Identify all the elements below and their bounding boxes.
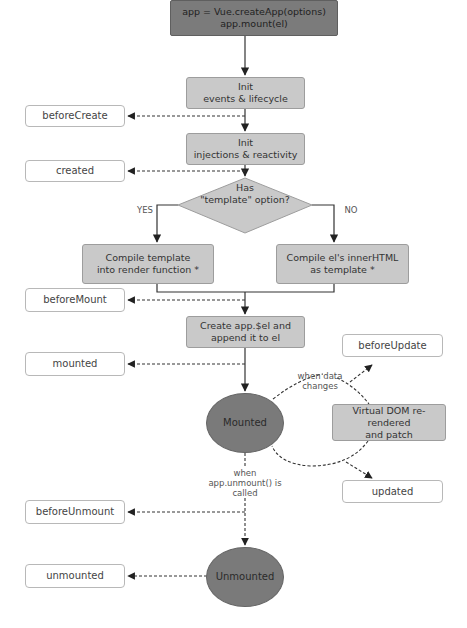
mounted-state: Mounted [206, 393, 284, 453]
before-update-arrow [350, 365, 372, 382]
compile-el-node: Compile el's innerHTML as template * [276, 244, 409, 284]
vdom-line2: and patch [365, 429, 413, 441]
vdom-rerender-node: Virtual DOM re-rendered and patch [332, 404, 446, 441]
init-events-node: Init events & lifecycle [186, 77, 305, 109]
unmounted-state-label: Unmounted [216, 571, 275, 583]
hook-mounted: mounted [25, 352, 125, 376]
init-injections-line1: Init [238, 137, 253, 149]
compile-template-line1: Compile template [106, 252, 191, 264]
hook-beforeMount-label: beforeMount [43, 294, 107, 306]
hook-unmounted: unmounted [25, 564, 125, 588]
hook-mounted-label: mounted [53, 358, 98, 370]
hook-beforeCreate: beforeCreate [25, 105, 125, 127]
init-injections-node: Init injections & reactivity [186, 133, 305, 165]
create-el-line2: append it to el [211, 332, 280, 344]
decision-line1: Has [185, 182, 305, 194]
mounted-state-label: Mounted [223, 417, 267, 429]
hook-created-label: created [56, 165, 94, 177]
decision-text: Has "template" option? [185, 182, 305, 206]
compile-el-line1: Compile el's innerHTML [287, 252, 399, 264]
create-el-line1: Create app.$el and [200, 320, 291, 332]
vdom-line1: Virtual DOM re-rendered [333, 405, 445, 429]
init-events-line2: events & lifecycle [203, 93, 287, 105]
hook-beforeUnmount-label: beforeUnmount [36, 506, 114, 518]
data-changes-annotation: when data changes [292, 371, 348, 391]
create-app-line2: app.mount(el) [220, 18, 288, 30]
hook-beforeUpdate: beforeUpdate [342, 334, 443, 357]
create-app-node: app = Vue.createApp(options) app.mount(e… [170, 0, 338, 36]
updated-arrow [346, 462, 372, 478]
unmounted-state: Unmounted [206, 547, 284, 607]
hook-beforeMount: beforeMount [25, 288, 125, 312]
unmount-line1: when [205, 468, 285, 478]
lifecycle-diagram: app = Vue.createApp(options) app.mount(e… [0, 0, 467, 628]
unmount-annotation: when app.unmount() is called [205, 468, 285, 498]
compile-el-line2: as template * [310, 264, 374, 276]
create-el-node: Create app.$el and append it to el [186, 316, 305, 348]
hook-updated-label: updated [372, 486, 414, 498]
data-changes-line2: changes [292, 381, 348, 391]
unmount-line2: app.unmount() is [205, 478, 285, 488]
hook-created: created [25, 160, 125, 182]
hook-updated: updated [342, 480, 443, 503]
yes-branch-arrow [157, 205, 178, 242]
create-app-line1: app = Vue.createApp(options) [182, 6, 326, 18]
data-changes-line1: when data [292, 371, 348, 381]
decision-line2: "template" option? [185, 194, 305, 206]
hook-beforeUpdate-label: beforeUpdate [358, 340, 426, 352]
no-label: NO [341, 205, 361, 215]
update-loop-bottom [272, 441, 368, 466]
hook-unmounted-label: unmounted [46, 570, 104, 582]
hook-beforeUnmount: beforeUnmount [25, 500, 125, 524]
yes-label: YES [133, 205, 157, 215]
compile-template-line2: into render function * [97, 264, 199, 276]
init-events-line1: Init [238, 81, 253, 93]
unmount-line3: called [205, 488, 285, 498]
hook-beforeCreate-label: beforeCreate [42, 110, 107, 122]
init-injections-line2: injections & reactivity [194, 149, 298, 161]
no-branch-arrow [312, 205, 334, 242]
merge-line [157, 284, 334, 292]
compile-template-node: Compile template into render function * [82, 244, 214, 284]
